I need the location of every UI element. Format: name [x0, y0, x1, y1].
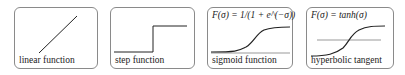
step-function-panel: step function	[110, 7, 195, 69]
tanh-formula: F(σ) = tanh(σ)	[311, 10, 367, 20]
sigmoid-function-caption: sigmoid function	[212, 55, 277, 65]
sigmoid-function-panel: F(σ) = 1/(1 + e^(−σ)) sigmoid function	[207, 7, 293, 69]
linear-function-panel: linear function	[14, 7, 98, 69]
step-function-caption: step function	[115, 55, 164, 65]
linear-function-caption: linear function	[19, 55, 75, 65]
tanh-function-caption: hyperbolic tangent	[311, 55, 382, 65]
tanh-function-panel: F(σ) = tanh(σ) hyperbolic tangent	[306, 7, 394, 69]
sigmoid-formula: F(σ) = 1/(1 + e^(−σ))	[212, 10, 295, 20]
